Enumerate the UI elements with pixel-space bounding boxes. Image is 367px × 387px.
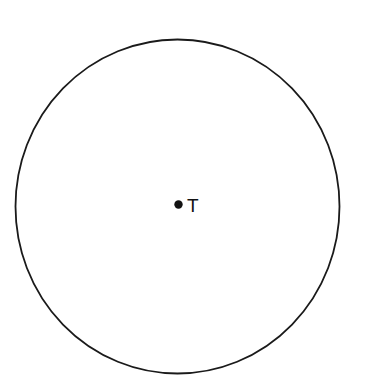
center-point-dot xyxy=(174,200,182,208)
geometry-diagram: T xyxy=(0,0,367,387)
diagram-background xyxy=(0,0,367,387)
center-point-label: T xyxy=(187,195,199,216)
figure-canvas: T xyxy=(0,0,367,387)
